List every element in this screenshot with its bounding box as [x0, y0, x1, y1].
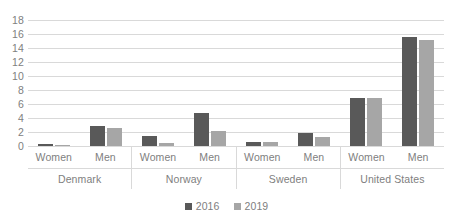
gender-bar-pair	[28, 20, 80, 146]
category-country-cell: WomenMenUnited States	[341, 147, 444, 189]
category-country-cell: WomenMenDenmark	[28, 147, 132, 189]
category-gender-row: WomenMen	[132, 147, 235, 169]
y-axis-tick: 12	[12, 57, 24, 68]
y-axis-tick: 10	[12, 71, 24, 82]
bar-2019[interactable]	[315, 137, 330, 146]
y-axis-tick: 2	[18, 127, 24, 138]
category-country-cell: WomenMenSweden	[237, 147, 341, 189]
y-axis-tick: 8	[18, 85, 24, 96]
category-gender-row: WomenMen	[341, 147, 444, 169]
category-gender-label: Women	[132, 147, 184, 168]
y-axis: 181614121086420	[0, 20, 24, 146]
category-gender-row: WomenMen	[28, 147, 131, 169]
category-gender-label: Men	[288, 147, 340, 168]
category-gender-label: Men	[80, 147, 132, 168]
chart-legend: 20162019	[0, 196, 453, 216]
country-bar-group	[28, 20, 132, 146]
y-axis-tick: 6	[18, 99, 24, 110]
category-country-label: Norway	[132, 169, 235, 190]
gender-bar-pair	[392, 20, 444, 146]
category-country-label: Denmark	[28, 169, 131, 190]
bar-2019[interactable]	[419, 40, 434, 146]
gender-bar-pair	[132, 20, 184, 146]
category-country-label: Sweden	[237, 169, 340, 190]
bar-2016[interactable]	[402, 37, 417, 146]
bar-2016[interactable]	[350, 98, 365, 146]
country-bar-group	[236, 20, 340, 146]
legend-item[interactable]: 2019	[234, 200, 269, 212]
bar-chart: 181614121086420 WomenMenDenmarkWomenMenN…	[0, 0, 453, 224]
category-country-cell: WomenMenNorway	[132, 147, 236, 189]
category-gender-label: Men	[184, 147, 236, 168]
gender-bar-pair	[288, 20, 340, 146]
bar-2019[interactable]	[211, 131, 226, 146]
gender-bar-pair	[80, 20, 132, 146]
category-axis: WomenMenDenmarkWomenMenNorwayWomenMenSwe…	[28, 146, 444, 189]
category-gender-label: Men	[392, 147, 444, 168]
gender-bar-pair	[340, 20, 392, 146]
y-axis-tick: 0	[18, 141, 24, 152]
legend-swatch-icon	[234, 203, 241, 210]
gender-bar-pair	[236, 20, 288, 146]
y-axis-tick: 4	[18, 113, 24, 124]
category-country-label: United States	[341, 169, 444, 190]
bar-2016[interactable]	[90, 126, 105, 146]
bar-2016[interactable]	[142, 136, 157, 147]
bar-2016[interactable]	[298, 133, 313, 146]
category-gender-label: Women	[341, 147, 393, 168]
y-axis-tick: 16	[12, 29, 24, 40]
legend-label: 2019	[245, 200, 269, 212]
legend-label: 2016	[196, 200, 220, 212]
country-bar-group	[340, 20, 444, 146]
y-axis-tick: 14	[12, 43, 24, 54]
legend-item[interactable]: 2016	[185, 200, 220, 212]
bar-2019[interactable]	[367, 98, 382, 146]
gender-bar-pair	[184, 20, 236, 146]
country-bar-group	[132, 20, 236, 146]
y-axis-tick: 18	[12, 15, 24, 26]
category-gender-label: Women	[237, 147, 289, 168]
legend-swatch-icon	[185, 203, 192, 210]
chart-title	[0, 0, 453, 12]
category-gender-row: WomenMen	[237, 147, 340, 169]
bar-2016[interactable]	[194, 113, 209, 146]
bar-2019[interactable]	[107, 128, 122, 146]
category-gender-label: Women	[28, 147, 80, 168]
bars-layer	[28, 20, 444, 146]
